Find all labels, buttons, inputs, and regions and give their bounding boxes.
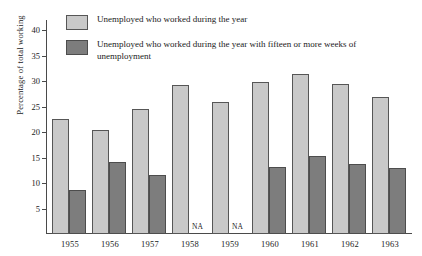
- legend-swatch-icon: [66, 15, 88, 30]
- x-tick-label: 1961: [290, 239, 330, 249]
- bar-group: 1963: [370, 20, 410, 234]
- legend-label: Unemployed who worked during the year wi…: [97, 39, 357, 62]
- x-tick-label: 1957: [130, 239, 170, 249]
- x-tick-label: 1958: [170, 239, 210, 249]
- x-tick-label: 1959: [210, 239, 250, 249]
- x-tick-label: 1960: [250, 239, 290, 249]
- bar-light: [52, 119, 69, 234]
- bar-dark: [149, 175, 166, 234]
- y-tick-label: 15: [32, 153, 41, 163]
- bar-light: [292, 74, 309, 235]
- na-label: NA: [189, 222, 206, 231]
- legend-label: Unemployed who worked during the year: [97, 14, 247, 26]
- legend-item: Unemployed who worked during the year wi…: [66, 39, 357, 62]
- bar-light: [132, 109, 149, 234]
- bar-light: [372, 97, 389, 234]
- bar-dark: [69, 190, 86, 234]
- x-tick-label: 1956: [90, 239, 130, 249]
- bar-light: [332, 84, 349, 234]
- bar-light: [172, 85, 189, 234]
- legend: Unemployed who worked during the year Un…: [66, 14, 357, 71]
- y-tick-label: 5: [36, 204, 40, 214]
- legend-item: Unemployed who worked during the year: [66, 14, 357, 30]
- bar-light: [252, 82, 269, 234]
- bar-light: [212, 102, 229, 234]
- y-tick-label: 25: [32, 102, 41, 112]
- y-tick-label: 35: [32, 51, 41, 61]
- bar-dark: [349, 164, 366, 234]
- y-tick-label: 30: [32, 76, 41, 86]
- y-tick-label: 40: [32, 25, 41, 35]
- bar-light: [92, 130, 109, 234]
- x-tick-label: 1955: [50, 239, 90, 249]
- bar-dark: [109, 162, 126, 234]
- bar-chart: Percentage of total working 510152025303…: [0, 0, 422, 256]
- x-tick-label: 1963: [370, 239, 410, 249]
- legend-swatch-icon: [66, 40, 88, 55]
- x-tick-label: 1962: [330, 239, 370, 249]
- bar-dark: [269, 167, 286, 234]
- y-tick-label: 20: [32, 127, 41, 137]
- bar-dark: [309, 156, 326, 234]
- y-tick-label: 10: [32, 178, 41, 188]
- y-axis-title: Percentage of total working: [15, 0, 25, 145]
- bar-dark: [389, 168, 406, 234]
- na-label: NA: [229, 222, 246, 231]
